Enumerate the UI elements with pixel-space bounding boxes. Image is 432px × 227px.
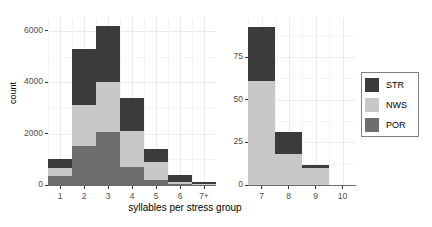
left-plot-area [48, 18, 216, 185]
x-axis-tick [315, 186, 316, 189]
bar-segment-por [72, 146, 96, 185]
bar-4[interactable] [120, 18, 144, 185]
y-axis-tick [245, 57, 248, 58]
y-axis-line [247, 18, 248, 185]
y-axis-tick-label: 2000 [17, 128, 43, 138]
x-axis-tick-label: 7 [248, 191, 276, 201]
x-axis-tick [132, 186, 133, 189]
bar-segment-str [168, 175, 192, 182]
bar-segment-por [120, 167, 144, 185]
x-axis-tick [84, 186, 85, 189]
bar-segment-nws [120, 131, 144, 167]
right-plot-area [248, 18, 356, 185]
x-axis-tick [288, 186, 289, 189]
x-axis-tick [261, 186, 262, 189]
bar-3[interactable] [96, 18, 120, 185]
y-axis-tick-label: 4000 [17, 76, 43, 86]
bar-7[interactable] [248, 18, 275, 185]
bar-8[interactable] [275, 18, 302, 185]
x-axis-tick [204, 186, 205, 189]
legend: STR NWS POR [361, 72, 419, 137]
x-axis-title-label: syllables per stress group [128, 202, 241, 213]
y-axis-tick [245, 142, 248, 143]
bar-segment-nws [168, 182, 192, 185]
bar-segment-str [275, 132, 302, 154]
bar-6[interactable] [168, 18, 192, 185]
x-axis-line [248, 185, 356, 186]
legend-label-por: POR [386, 120, 406, 130]
bar-segment-str [120, 98, 144, 131]
bar-10[interactable] [329, 18, 356, 185]
legend-item-por[interactable]: POR [365, 117, 417, 133]
bar-2[interactable] [72, 18, 96, 185]
legend-swatch-por [365, 118, 379, 132]
x-axis-tick [342, 186, 343, 189]
legend-label-str: STR [386, 80, 404, 90]
y-axis-tick-label: 50 [225, 94, 243, 104]
bar-segment-str [96, 26, 120, 83]
right-panel [248, 18, 356, 185]
bar-segment-nws [248, 81, 275, 185]
y-axis-tick [45, 82, 48, 83]
x-axis-tick-label: 8 [275, 191, 303, 201]
chart-figure: count syllables per stress group STR NWS… [0, 0, 432, 227]
bar-segment-por [48, 176, 72, 185]
x-axis-tick [60, 186, 61, 189]
bar-7+[interactable] [192, 18, 216, 185]
bar-segment-str [144, 149, 168, 162]
bar-9[interactable] [302, 18, 329, 185]
bar-segment-str [48, 159, 72, 168]
y-axis-tick-label: 6000 [17, 25, 43, 35]
bar-segment-str [72, 49, 96, 106]
x-axis-tick-label: 10 [329, 191, 357, 201]
y-axis-tick [45, 30, 48, 31]
legend-label-nws: NWS [386, 100, 407, 110]
x-axis-tick-label: 7+ [190, 191, 218, 201]
y-axis-tick-label: 0 [17, 179, 43, 189]
bar-segment-str [248, 27, 275, 82]
y-axis-tick-label: 0 [225, 179, 243, 189]
bar-segment-nws [275, 154, 302, 185]
bar-segment-str [302, 165, 329, 168]
bar-segment-nws [48, 168, 72, 176]
y-axis-tick [245, 99, 248, 100]
left-panel [48, 18, 216, 185]
bar-5[interactable] [144, 18, 168, 185]
y-axis-tick [45, 133, 48, 134]
legend-item-str[interactable]: STR [365, 77, 417, 93]
bar-segment-nws [96, 82, 120, 132]
bar-segment-nws [302, 168, 329, 185]
bar-segment-nws [72, 105, 96, 146]
x-axis-title: syllables per stress group [0, 202, 370, 213]
y-axis-tick-label: 25 [225, 136, 243, 146]
x-axis-tick [108, 186, 109, 189]
x-axis-tick [156, 186, 157, 189]
legend-swatch-nws [365, 98, 379, 112]
x-axis-tick [180, 186, 181, 189]
bar-segment-por [96, 132, 120, 185]
x-axis-tick-label: 9 [302, 191, 330, 201]
bar-1[interactable] [48, 18, 72, 185]
bar-segment-str [192, 182, 216, 184]
bar-segment-nws [144, 162, 168, 180]
legend-item-nws[interactable]: NWS [365, 97, 417, 113]
y-axis-tick-label: 75 [225, 51, 243, 61]
legend-swatch-str [365, 78, 379, 92]
y-axis-line [47, 18, 48, 185]
